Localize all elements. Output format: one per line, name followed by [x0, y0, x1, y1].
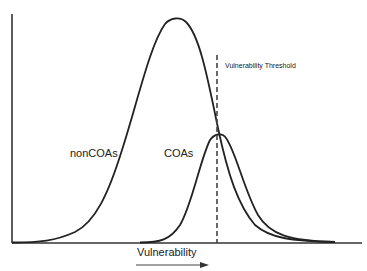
direction-arrow-icon [200, 262, 209, 268]
noncoas-curve [12, 18, 335, 242]
distribution-diagram: Vulnerability Threshold nonCOAs COAs Vul… [0, 0, 367, 271]
threshold-label: Vulnerability Threshold [225, 62, 296, 70]
noncoas-label: nonCOAs [70, 147, 118, 159]
x-axis-label: Vulnerability [137, 246, 197, 258]
coas-label: COAs [164, 147, 194, 159]
